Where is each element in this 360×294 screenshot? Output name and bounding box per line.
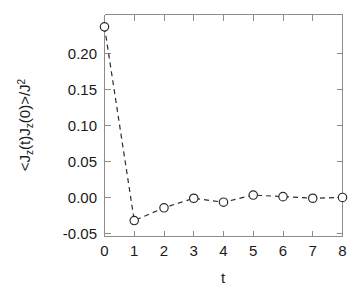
data-point-marker (100, 23, 108, 31)
y-tick-label: 0.00 (68, 189, 97, 206)
x-tick-label: 1 (130, 242, 138, 259)
x-tick-label: 8 (338, 242, 346, 259)
y-title-paren1: (t) (16, 136, 33, 150)
y-title-open-bracket: < (16, 162, 33, 171)
y-title-close-bracket: > (16, 96, 33, 105)
figure-container: -0.05 0.00 0.05 0.10 0.15 0.20 0 1 2 3 4… (0, 0, 360, 294)
y-title-paren2: (0) (16, 105, 33, 123)
data-point-marker (309, 194, 317, 202)
data-point-marker (219, 198, 227, 206)
y-tick-label: 0.20 (68, 45, 97, 62)
data-point-marker (130, 216, 138, 224)
x-tick-label: 5 (249, 242, 257, 259)
data-point-marker (160, 204, 168, 212)
x-tick-label: 4 (219, 242, 227, 259)
x-tick-label: 6 (279, 242, 287, 259)
data-point-marker (338, 193, 346, 201)
y-tick-labels: -0.05 0.00 0.05 0.10 0.15 0.20 (63, 45, 97, 242)
y-tick-label: 0.10 (68, 117, 97, 134)
y-title-j2: J (16, 128, 33, 136)
x-tick-label: 0 (100, 242, 108, 259)
y-title-slash: /J (16, 84, 33, 96)
y-tick-label: 0.15 (68, 81, 97, 98)
data-point-marker (190, 194, 198, 202)
y-tick-label: 0.05 (68, 153, 97, 170)
x-tick-labels: 0 1 2 3 4 5 6 7 8 (100, 242, 346, 259)
svg-text:<Jz(t)Jz(0)>/J2: <Jz(t)Jz(0)>/J2 (16, 78, 35, 171)
data-point-marker (249, 191, 257, 199)
x-tick-label: 2 (160, 242, 168, 259)
x-tick-label: 3 (190, 242, 198, 259)
correlation-function-plot: -0.05 0.00 0.05 0.10 0.15 0.20 0 1 2 3 4… (0, 0, 360, 294)
y-title-j1: J (16, 155, 33, 163)
x-tick-label: 7 (309, 242, 317, 259)
x-axis-title: t (221, 269, 226, 286)
y-tick-label: -0.05 (63, 225, 97, 242)
y-axis-title: <Jz(t)Jz(0)>/J2 (16, 78, 35, 171)
data-point-marker (279, 192, 287, 200)
y-title-sup: 2 (16, 78, 27, 84)
